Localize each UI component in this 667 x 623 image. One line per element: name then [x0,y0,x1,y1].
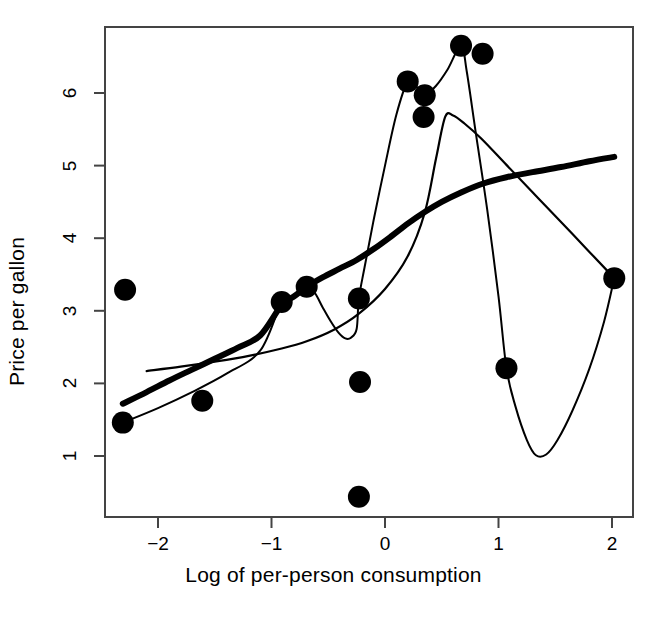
data-point [114,279,136,301]
axis-ticks [94,93,612,528]
data-point [296,276,318,298]
y-tick-label: 3 [59,291,81,331]
data-point [603,267,625,289]
data-point [349,371,371,393]
x-tick-label: 0 [365,533,405,555]
y-tick-label: 4 [59,218,81,258]
data-point [348,287,370,309]
data-point [112,412,134,434]
data-point [495,357,517,379]
data-point [191,390,213,412]
data-point [414,84,436,106]
curve-thick-smooth-fit [123,157,614,404]
y-tick-label: 5 [59,146,81,186]
data-point [348,486,370,508]
data-points [112,35,625,508]
y-tick-label: 2 [59,363,81,403]
y-tick-label: 6 [59,73,81,113]
plot-canvas [0,0,667,623]
x-tick-label: −1 [252,533,292,555]
data-point [413,106,435,128]
x-tick-label: 2 [592,533,632,555]
data-point [397,70,419,92]
y-tick-label: 1 [59,436,81,476]
plot-frame [105,27,633,517]
y-axis-label: Price per gallon [0,0,34,623]
x-tick-label: 1 [479,533,519,555]
chart-figure: Log of per-person consumption Price per … [0,0,667,623]
plot-box [105,27,633,517]
x-axis-label: Log of per-person consumption [0,563,667,587]
data-point [271,291,293,313]
data-point [450,35,472,57]
x-tick-label: −2 [138,533,178,555]
data-point [472,43,494,65]
